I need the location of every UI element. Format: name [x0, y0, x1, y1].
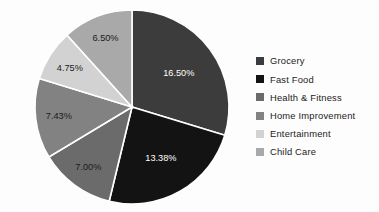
- legend-item[interactable]: Fast Food: [256, 70, 376, 88]
- legend-color-swatch-icon: [256, 93, 264, 101]
- pie-slice-label: 16.50%: [163, 68, 194, 78]
- legend-item-label: Grocery: [270, 56, 305, 65]
- pie-chart-figure: 16.50%13.38%7.00%7.43%4.75%6.50% Grocery…: [0, 0, 379, 212]
- legend-item[interactable]: Grocery: [256, 52, 376, 70]
- legend-item-label: Health & Fitness: [270, 93, 342, 102]
- pie-slice-label: 6.50%: [92, 33, 118, 43]
- legend-item[interactable]: Child Care: [256, 143, 376, 161]
- pie-chart-plot-area: 16.50%13.38%7.00%7.43%4.75%6.50%: [18, 8, 246, 206]
- legend-color-swatch-icon: [256, 148, 264, 156]
- legend-color-swatch-icon: [256, 112, 264, 120]
- legend-item[interactable]: Entertainment: [256, 125, 376, 143]
- legend-color-swatch-icon: [256, 75, 264, 83]
- legend-color-swatch-icon: [256, 130, 264, 138]
- legend-item-label: Child Care: [270, 147, 316, 156]
- pie-slice-label: 4.75%: [57, 63, 83, 73]
- pie-slice-label: 7.00%: [75, 162, 101, 172]
- legend-color-swatch-icon: [256, 57, 264, 65]
- legend-item[interactable]: Home Improvement: [256, 107, 376, 125]
- legend-item[interactable]: Health & Fitness: [256, 88, 376, 106]
- chart-legend: GroceryFast FoodHealth & FitnessHome Imp…: [256, 52, 376, 161]
- legend-item-label: Entertainment: [270, 129, 331, 138]
- legend-item-label: Fast Food: [270, 75, 314, 84]
- pie-chart-svg: 16.50%13.38%7.00%7.43%4.75%6.50%: [18, 8, 246, 206]
- pie-slice-label: 13.38%: [145, 153, 176, 163]
- pie-slice-label: 7.43%: [46, 111, 72, 121]
- legend-item-label: Home Improvement: [270, 111, 355, 120]
- pie-slice-group: [35, 10, 229, 204]
